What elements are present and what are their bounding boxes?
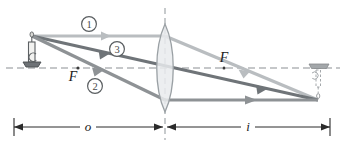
object-distance-label: o <box>85 119 92 134</box>
ray-2-badge-label: 2 <box>92 81 97 92</box>
diagram-canvas: 1 3 2 F F o i <box>0 0 344 144</box>
focal-point-left-label: F <box>68 69 78 84</box>
ray-2-badge: 2 <box>88 79 103 94</box>
object-distance-dimension: o <box>14 118 163 136</box>
lens-ray-diagram: 1 3 2 F F o i <box>0 0 344 144</box>
ray-1-badge: 1 <box>82 17 97 32</box>
inverted-candle-image <box>309 64 329 98</box>
ray-3-badge-label: 3 <box>114 44 119 55</box>
image-distance-dimension: i <box>167 118 330 136</box>
focal-point-right-marker <box>222 66 225 69</box>
ray-3-badge: 3 <box>110 42 125 57</box>
ray-1-badge-label: 1 <box>86 19 91 30</box>
focal-point-right-label: F <box>219 50 229 65</box>
image-distance-label: i <box>246 119 250 134</box>
